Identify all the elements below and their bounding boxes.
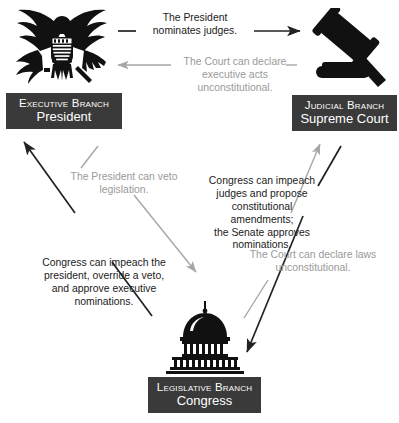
judicial-branch-label: Judicial Branch [298,99,391,111]
caption-congress-impeach-president: Congress can impeach the president, over… [36,257,172,309]
caption-line: constitutional amendments; [231,201,294,225]
checks-and-balances-diagram: Executive Branch President Judicial Bran… [0,0,399,423]
caption-line: nominations. [75,296,134,307]
judicial-branch-institution: Supreme Court [298,112,391,126]
caption-line: judges and propose [216,188,307,199]
executive-branch-officeholder: President [12,110,116,124]
legislative-branch-institution: Congress [154,394,255,408]
gavel-icon [300,8,392,92]
legislative-branch-label: Legislative Branch [154,381,255,393]
caption-executive-acts-unconstitutional: The Court can declare executive acts unc… [176,56,294,95]
caption-congress-impeach-judges: Congress can impeach judges and propose … [204,175,320,252]
caption-line: Congress can impeach the [42,257,166,268]
caption-line: The Court can declare laws [250,249,376,260]
node-judicial-branch[interactable]: Judicial Branch Supreme Court [292,95,397,131]
caption-laws-unconstitutional: The Court can declare laws unconstitutio… [246,249,380,275]
caption-line: Congress can impeach [209,175,315,186]
capitol-dome-icon [160,300,250,374]
caption-line: unconstitutional. [197,82,272,93]
caption-line: and approve executive [52,283,157,294]
edge-veto-legislation [81,146,196,272]
caption-line: nominates judges. [153,25,237,36]
node-executive-branch[interactable]: Executive Branch President [6,93,122,129]
caption-line: The President [163,12,228,23]
caption-nominates-judges: The President nominates judges. [140,12,250,38]
caption-line: The Court can declare [184,56,287,67]
caption-line: president, override a veto, [44,270,164,281]
caption-line: executive acts [202,69,268,80]
caption-line: The President can veto [71,171,178,182]
caption-line: the Senate approves [214,227,310,238]
caption-line: unconstitutional. [275,262,350,273]
node-legislative-branch[interactable]: Legislative Branch Congress [148,377,261,413]
caption-veto-legislation: The President can veto legislation. [62,171,186,197]
executive-branch-label: Executive Branch [12,97,116,109]
eagle-seal-icon [8,4,116,90]
caption-line: legislation. [99,184,148,195]
